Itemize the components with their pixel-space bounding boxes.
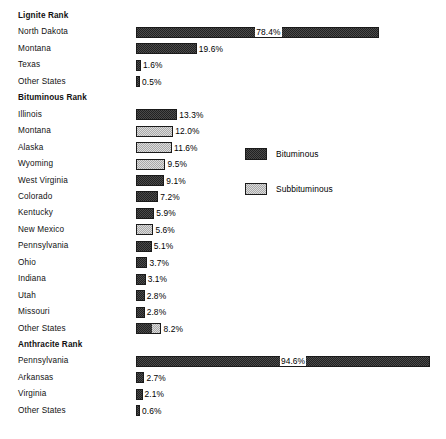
legend-label: Bituminous bbox=[276, 148, 318, 160]
legend-swatch-bituminous bbox=[245, 148, 267, 160]
legend-label: Subbituminous bbox=[276, 183, 333, 195]
legend-swatch-subbituminous bbox=[245, 183, 267, 195]
chart-legend: BituminousSubbituminous bbox=[0, 0, 446, 439]
